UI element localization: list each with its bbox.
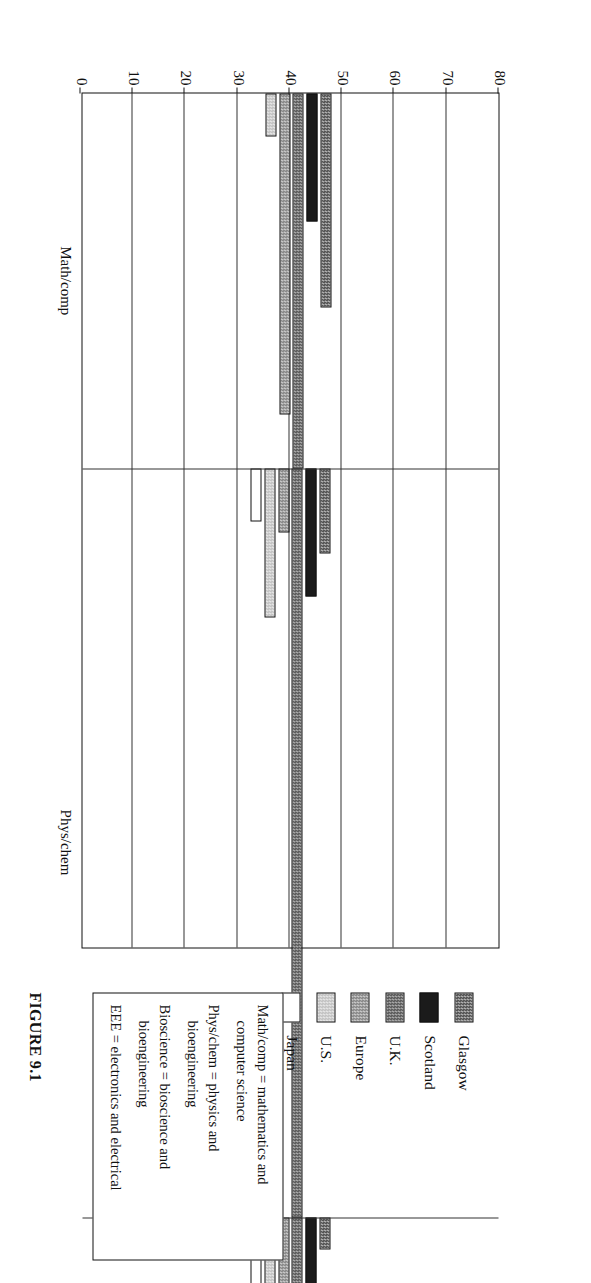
y-tick-mark [393, 87, 394, 93]
y-tick-label-80: 80 [492, 70, 507, 85]
legend-swatch-u-s [316, 992, 335, 1022]
bar-phys-chem-scotland [305, 468, 316, 596]
legend-swatch-scotland [420, 992, 439, 1022]
y-tick-mark [445, 87, 446, 93]
legend-item-u-s: U.S. [316, 992, 335, 1207]
y-tick-label-60: 60 [387, 70, 402, 85]
y-tick-mark [79, 87, 80, 93]
y-tick-mark [131, 87, 132, 93]
note-line-main: Phys/chem = physics and [205, 1004, 221, 1151]
note-line-continuation: computer science [231, 1004, 252, 1248]
y-tick-label-30: 30 [230, 70, 245, 85]
y-tick-mark [236, 87, 237, 93]
legend-label-u-s: U.S. [317, 1035, 335, 1063]
legend-item-europe: Europe [351, 992, 370, 1207]
bar-bioscience-glasgow [319, 1217, 330, 1249]
legend-item-scotland: Scotland [420, 992, 439, 1207]
plot-frame: Math/compPhys/chemBioscienceEEEEngineer [81, 92, 499, 948]
y-tick-label-20: 20 [178, 70, 193, 85]
y-tick-mark [340, 87, 341, 93]
bar-math-comp-u-s [265, 93, 276, 136]
bar-math-comp-europe [279, 93, 290, 414]
legend-swatch-japan [282, 992, 301, 1022]
bar-bioscience-u-k [291, 1217, 302, 1283]
bar-phys-chem-europe [278, 468, 289, 532]
note-line-1: Math/comp = mathematics andcomputer scie… [231, 1004, 272, 1248]
bar-math-comp-scotland [306, 93, 317, 221]
rotated-page-stage: PERCENT Math/compPhys/chemBioscienceEEEE… [0, 0, 591, 1283]
bar-phys-chem-u-s [264, 468, 275, 618]
bar-math-comp-glasgow [320, 93, 331, 307]
note-line-2: Phys/chem = physics andbioengineering [182, 1004, 223, 1248]
legend-swatch-u-k [385, 992, 404, 1022]
note-line-3: Bioscience = bioscience andbioengineerin… [133, 1004, 174, 1248]
legend-item-japan: Japan [282, 992, 301, 1207]
legend-label-europe: Europe [351, 1035, 369, 1080]
category-label-phys-chem: Phys/chem [56, 468, 73, 1217]
bar-bioscience-scotland [305, 1217, 316, 1283]
legend-swatch-glasgow [454, 992, 473, 1022]
legend: GlasgowScotlandU.K.EuropeU.S.Japan [266, 992, 473, 1207]
figure-9-1: PERCENT Math/compPhys/chemBioscienceEEEE… [0, 0, 591, 1283]
category-label-bioscience: Bioscience [56, 1217, 73, 1283]
y-tick-label-70: 70 [439, 70, 454, 85]
note-line-main: Bioscience = bioscience and [156, 1004, 172, 1169]
y-tick-mark [184, 87, 185, 93]
y-tick-mark [288, 87, 289, 93]
y-tick-mark [497, 87, 498, 93]
bar-groups: Math/compPhys/chemBioscienceEEEEngineer [82, 93, 498, 947]
note-line-continuation: bioengineering [182, 1004, 203, 1248]
legend-item-u-k: U.K. [385, 992, 404, 1207]
y-tick-label-50: 50 [335, 70, 350, 85]
legend-label-scotland: Scotland [420, 1035, 438, 1089]
legend-item-glasgow: Glasgow [454, 992, 473, 1207]
y-tick-label-10: 10 [126, 70, 141, 85]
y-tick-label-0: 0 [74, 78, 89, 86]
abbreviation-note-box: Math/comp = mathematics andcomputer scie… [92, 992, 283, 1260]
chart-plot-area: PERCENT Math/compPhys/chemBioscienceEEEE… [81, 92, 499, 948]
note-line-continuation: bioengineering [133, 1004, 154, 1248]
y-tick-label-40: 40 [283, 70, 298, 85]
legend-label-glasgow: Glasgow [455, 1035, 473, 1090]
note-line-4: EEE = electronics and electrical [104, 1004, 125, 1248]
legend-label-u-k: U.K. [386, 1035, 404, 1065]
bar-math-comp-u-k [292, 93, 303, 468]
legend-label-japan: Japan [282, 1035, 300, 1070]
bar-phys-chem-japan [250, 468, 261, 522]
category-label-math-comp: Math/comp [56, 93, 73, 468]
legend-swatch-europe [351, 992, 370, 1022]
note-line-main: Math/comp = mathematics and [254, 1004, 270, 1184]
figure-caption: FIGURE 9.1 [25, 992, 43, 1081]
bar-group-math-comp: Math/comp [82, 93, 498, 468]
note-line-main: EEE = electronics and electrical [107, 1004, 123, 1190]
bar-phys-chem-glasgow [319, 468, 330, 554]
